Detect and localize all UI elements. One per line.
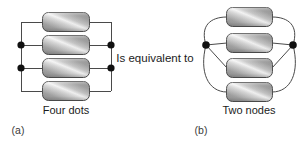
panel-b-caption: Two nodes — [222, 104, 276, 116]
resistor-a-4 — [43, 82, 90, 101]
resistor-a-3 — [43, 59, 90, 78]
node-a-left-upper — [17, 41, 24, 48]
node-a-left-lower — [17, 64, 24, 71]
node-a-right-lower — [107, 64, 114, 71]
node-b-left — [202, 41, 210, 49]
node-b-right — [289, 41, 297, 49]
resistor-a-2 — [43, 36, 90, 55]
resistor-a-1 — [43, 13, 90, 32]
equivalence-label: Is equivalent to — [116, 52, 193, 64]
resistor-b-1 — [227, 8, 273, 27]
resistor-b-4 — [227, 83, 273, 102]
resistor-b-3 — [227, 59, 273, 78]
panel-a-sublabel: (a) — [12, 124, 25, 136]
panel-a-caption: Four dots — [43, 104, 90, 116]
panel-b-sublabel: (b) — [195, 124, 208, 136]
circuit-equivalence-figure: Four dots (a) Is equivalent to — [0, 0, 306, 142]
resistor-b-2 — [227, 34, 273, 53]
figure-canvas: Four dots (a) Is equivalent to — [0, 0, 306, 142]
node-a-right-upper — [107, 41, 114, 48]
